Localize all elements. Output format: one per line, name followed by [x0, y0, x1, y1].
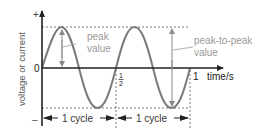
- peak-to-peak-label-line2: value: [194, 47, 218, 58]
- y-axis-label: voltage or current: [16, 32, 27, 106]
- peak-to-peak-label-line1: peak-to-peak: [194, 35, 253, 46]
- peak-to-peak-leader-line: [173, 47, 193, 50]
- cycle-2-label: 1 cycle: [136, 113, 168, 124]
- peak-label-line1: peak: [87, 31, 110, 42]
- y-axis-zero-label: 0: [34, 63, 40, 74]
- y-axis-minus-label: –: [32, 114, 38, 125]
- cycle-1-label: 1 cycle: [62, 113, 94, 124]
- half-tick-numerator: 1: [119, 72, 123, 79]
- y-axis-plus-label: +: [33, 9, 39, 20]
- sine-wave-diagram: + 0 – voltage or current 1 2 1 time/s pe…: [0, 0, 264, 132]
- half-tick-denominator: 2: [119, 80, 123, 87]
- peak-label-line2: value: [87, 43, 111, 54]
- one-tick-label: 1: [193, 71, 199, 82]
- x-axis-label: time/s: [207, 71, 234, 82]
